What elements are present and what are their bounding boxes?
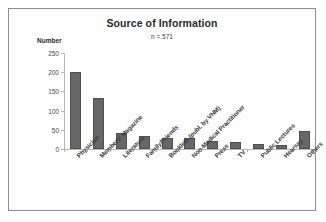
bar-slot: [64, 53, 87, 149]
figure-frame: Source of Information n = 571 Number 050…: [8, 8, 316, 211]
x-tick-mark: [64, 149, 65, 152]
bar[interactable]: [276, 145, 287, 149]
y-tick-label: 150: [48, 88, 59, 95]
y-tick-label: 250: [48, 50, 59, 57]
y-tick-label: 0: [55, 146, 59, 153]
bar-slot: [224, 53, 247, 149]
bar[interactable]: [253, 144, 264, 149]
figure-page: Source of Information n = 571 Number 050…: [0, 0, 326, 222]
bar[interactable]: [70, 72, 81, 149]
chart-title: Source of Information: [9, 17, 315, 29]
y-tick-label: 100: [48, 107, 59, 114]
x-tick-label: TV: [236, 148, 247, 159]
y-tick-label: 50: [52, 126, 59, 133]
x-tick-mark: [247, 149, 248, 152]
y-tick-label: 200: [48, 69, 59, 76]
bar-slot: [293, 53, 316, 149]
bar[interactable]: [230, 142, 241, 149]
bar-slot: [133, 53, 156, 149]
y-axis-label: Number: [37, 37, 62, 44]
bar-slot: [247, 53, 270, 149]
bar-slot: [87, 53, 110, 149]
